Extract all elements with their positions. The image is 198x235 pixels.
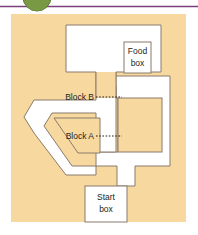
block-a-label: Block A [66,131,95,141]
food-box: Food box [124,42,151,73]
maze-diagram-svg: Food box Start box Block B Block A [0,0,198,235]
figure-root: Food box Start box Block B Block A [0,0,198,235]
central-block-shape [118,98,162,152]
food-box-label-line1: Food [128,46,148,56]
start-box: Start box [85,186,127,222]
block-b-shape [96,72,116,98]
start-box-label-line1: Start [97,192,116,202]
food-box-label-line2: box [131,58,145,68]
block-b-label: Block B [65,92,94,102]
start-box-label-line2: box [99,204,113,214]
